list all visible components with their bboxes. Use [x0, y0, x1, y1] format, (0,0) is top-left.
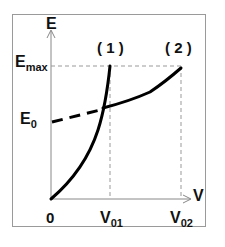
v02-label: V02	[170, 210, 193, 226]
curve-2-solid	[103, 68, 181, 108]
e-max-label: Emax	[15, 54, 48, 70]
e-zero-label: E0	[20, 111, 37, 127]
v01-label: V01	[100, 210, 123, 226]
curve-1-label: ( 1 )	[97, 40, 124, 55]
curve-2-dashed	[52, 110, 100, 122]
y-axis	[47, 30, 55, 199]
y-axis-label: E	[46, 16, 57, 32]
curve-2-label: ( 2 )	[165, 40, 192, 55]
x-axis-label: V	[193, 188, 204, 204]
origin-label: 0	[46, 210, 54, 225]
curve-1	[51, 66, 110, 199]
x-axis	[51, 195, 191, 203]
